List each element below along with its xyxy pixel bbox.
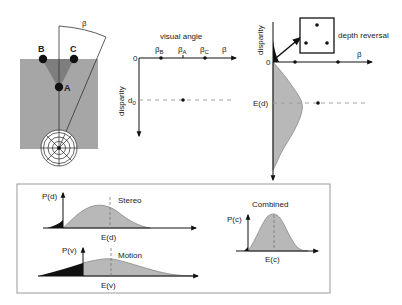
motion-title: Motion [118, 251, 142, 260]
point-a-label: A [64, 83, 71, 93]
point-b-label: B [38, 44, 45, 54]
x-axis-end-label: β [222, 45, 227, 54]
tick-label-c: βC [200, 45, 210, 55]
stereo-y-label: P(d) [42, 192, 57, 201]
estimate-panel: disparity 0 β E(d) depth reversal [253, 18, 389, 180]
point-a-estimate [316, 101, 320, 105]
stereo-x-label: E(d) [101, 233, 116, 242]
d0-label: d0 [128, 96, 136, 106]
disparity-map-panel: visual angle 0 βB βA βC β disparity d0 [117, 32, 236, 136]
point-a-disparity [181, 98, 185, 102]
point-c [70, 55, 78, 63]
x-axis-title: visual angle [160, 32, 203, 41]
tick-c-dot [203, 56, 207, 60]
inset-dot-c [325, 41, 329, 45]
reversal-arrow [276, 38, 300, 58]
point-b [39, 55, 47, 63]
tick-label-b: βB [155, 45, 164, 55]
dot-b [293, 60, 297, 64]
dot-c [336, 60, 340, 64]
figure: β B C A visual angle 0 βB [0, 0, 402, 305]
scene-panel: β B C A [20, 19, 106, 166]
combined-title: Combined [252, 200, 288, 209]
disparity-distribution [273, 62, 302, 170]
stereo-title: Stereo [118, 196, 142, 205]
motion-y-label: P(v) [62, 246, 77, 255]
y-axis-label: disparity [117, 86, 126, 116]
x-axis-end-label-right: β [357, 50, 362, 59]
point-a [55, 83, 63, 91]
combined-x-label: E(c) [265, 255, 280, 264]
eye-icon [41, 130, 77, 166]
tick-label-a: βA [178, 45, 187, 55]
origin-label-right: 0 [266, 58, 271, 67]
motion-x-label: E(v) [101, 281, 116, 290]
angle-label: β [82, 19, 87, 28]
reversal-tail [273, 40, 279, 62]
origin-label: 0 [133, 54, 138, 63]
expected-label: E(d) [253, 99, 268, 108]
inset-label: depth reversal [338, 31, 389, 40]
tick-b-dot [159, 56, 163, 60]
distributions-panel: P(d) Stereo E(d) P(v) Motion E(v) P(c) C… [17, 184, 330, 293]
inset-dot-a [315, 23, 319, 27]
inset-dot-b [304, 41, 308, 45]
y-axis-label-right: disparity [256, 25, 265, 55]
point-c-label: C [70, 44, 77, 54]
combined-y-label: P(c) [227, 215, 242, 224]
